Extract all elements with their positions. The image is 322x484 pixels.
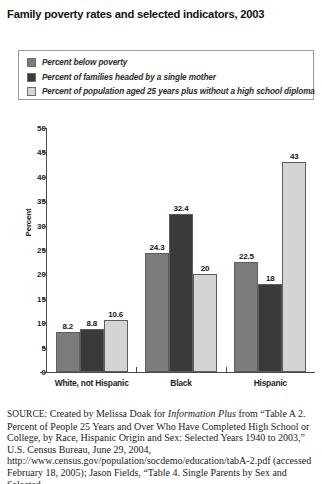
legend-label-no-diploma: Percent of population aged 25 years plus… [42, 87, 315, 96]
legend-item-no-diploma: Percent of population aged 25 years plus… [27, 85, 315, 97]
source-note: SOURCE: Created by Melissa Doak for Info… [7, 408, 317, 484]
bar [56, 332, 80, 372]
y-tick-mark [42, 372, 47, 373]
x-axis-group-separator [226, 367, 227, 372]
bar-value-label: 22.5 [228, 252, 264, 261]
legend-label-below-poverty: Percent below poverty [42, 58, 127, 67]
legend-swatch-below-poverty [27, 58, 36, 67]
x-axis-category-label: Hispanic [212, 378, 322, 388]
bar [282, 162, 306, 372]
page-title: Family poverty rates and selected indica… [7, 8, 317, 21]
legend-item-single-mother: Percent of families headed by a single m… [27, 71, 216, 83]
bar [80, 329, 104, 372]
bar [169, 214, 193, 372]
legend-swatch-no-diploma [27, 87, 36, 96]
bar [104, 320, 128, 372]
bar [193, 274, 217, 372]
bar-value-label: 32.4 [163, 204, 199, 213]
bar [258, 284, 282, 372]
source-publication: Information Plus [168, 408, 236, 419]
bar-value-label: 20 [187, 264, 223, 273]
legend-swatch-single-mother [27, 73, 36, 82]
x-axis-group-separator [136, 367, 137, 372]
legend-label-single-mother: Percent of families headed by a single m… [42, 73, 216, 82]
source-text-a: Created by Melissa Doak for [47, 408, 168, 419]
source-text-b: from “Table A 2. Percent of People 25 Ye… [7, 408, 311, 484]
bar [145, 253, 169, 372]
bar-value-label: 10.6 [98, 310, 134, 319]
chart-legend: Percent below poverty Percent of familie… [18, 50, 314, 100]
x-axis-line [40, 372, 315, 373]
source-prefix: SOURCE: [7, 409, 47, 419]
plot-area: 8.28.810.624.332.42022.51843 [47, 128, 315, 372]
legend-item-below-poverty: Percent below poverty [27, 56, 127, 68]
bar-value-label: 43 [276, 152, 312, 161]
